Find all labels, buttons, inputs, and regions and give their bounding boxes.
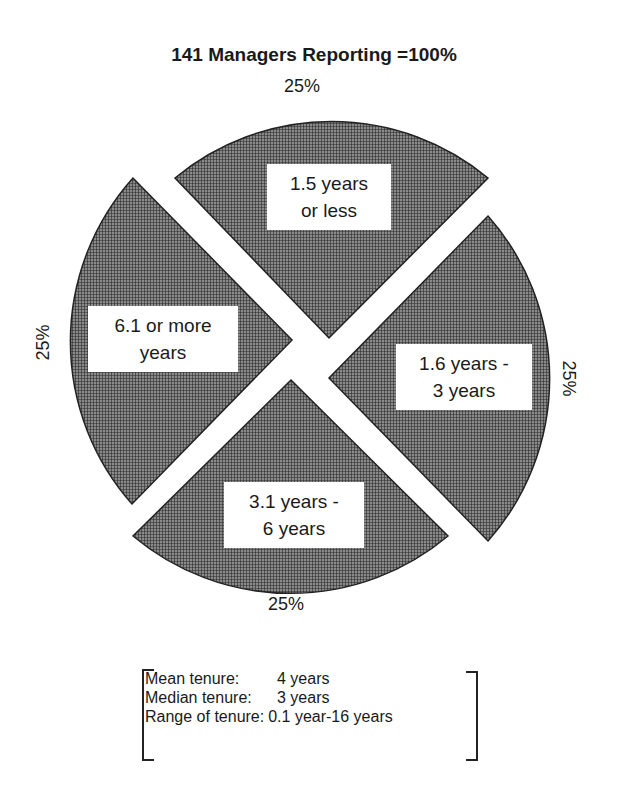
slice-label-line: 3 years — [406, 377, 522, 404]
slice-label-top: 1.5 years or less — [267, 164, 391, 230]
slice-label-line: 6 years — [234, 515, 354, 542]
slice-label-line: or less — [277, 197, 381, 224]
mean-value: 4 years — [277, 669, 329, 688]
slice-label-right: 1.6 years - 3 years — [396, 344, 532, 410]
slice-label-line: 6.1 or more — [98, 312, 228, 339]
stats-row-range: Range of tenure: 0.1 year-16 years — [145, 707, 393, 726]
mean-label: Mean tenure: — [145, 669, 277, 688]
stats-bracket-right — [466, 671, 478, 761]
slice-label-bottom: 3.1 years - 6 years — [224, 482, 364, 548]
range-value: 0.1 year-16 years — [268, 707, 393, 726]
slice-label-line: 1.6 years - — [406, 350, 522, 377]
median-value: 3 years — [277, 688, 329, 707]
stats-box: Mean tenure: 4 years Median tenure: 3 ye… — [145, 669, 393, 726]
median-label: Median tenure: — [145, 688, 277, 707]
stats-row-mean: Mean tenure: 4 years — [145, 669, 393, 688]
slice-label-line: 1.5 years — [277, 170, 381, 197]
slice-label-left: 6.1 or more years — [88, 306, 238, 372]
slice-label-line: years — [98, 339, 228, 366]
stats-row-median: Median tenure: 3 years — [145, 688, 393, 707]
slice-label-line: 3.1 years - — [234, 488, 354, 515]
range-label: Range of tenure: — [145, 707, 264, 726]
